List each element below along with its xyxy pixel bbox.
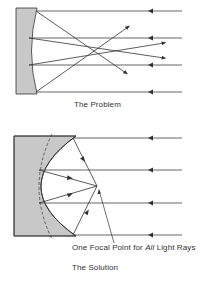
- solution-caption: The Solution: [72, 263, 118, 272]
- focal-point-label: One Focal Point for All Light Rays: [72, 243, 195, 252]
- focal-point-label-prefix: One Focal Point for: [72, 243, 145, 252]
- problem-panel: [16, 8, 182, 95]
- spherical-mirror: [16, 8, 37, 94]
- solution-panel: [14, 134, 182, 243]
- focal-point-label-suffix: Light Rays: [154, 243, 195, 252]
- mirror-focus-diagram: [0, 0, 220, 281]
- incoming-arrowheads-solution: [148, 136, 153, 238]
- incoming-rays: [29, 11, 182, 92]
- problem-caption: The Problem: [74, 100, 121, 109]
- incoming-arrowheads: [148, 9, 153, 95]
- focal-point-label-emphasis: All: [145, 243, 154, 252]
- reflected-rays: [29, 11, 164, 92]
